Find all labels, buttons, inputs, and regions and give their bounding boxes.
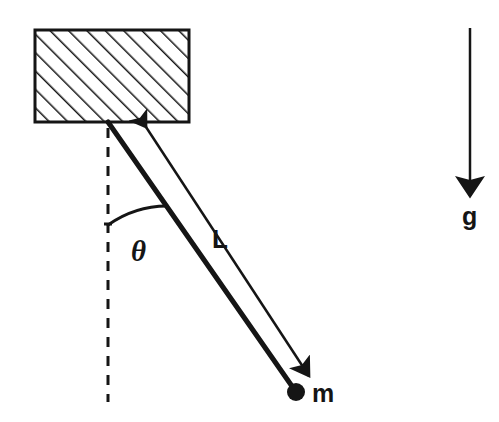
gravity-label-g: g bbox=[462, 204, 477, 229]
length-label-L: L bbox=[212, 226, 228, 252]
pendulum-diagram-canvas bbox=[0, 0, 499, 422]
angle-label-theta: θ bbox=[131, 237, 146, 266]
pendulum-bob bbox=[287, 383, 305, 401]
pendulum-diagram: θ L m g bbox=[0, 0, 499, 422]
support-block bbox=[35, 30, 189, 122]
angle-arc bbox=[108, 206, 167, 225]
mass-label-m: m bbox=[312, 381, 334, 406]
support-block-hatch-fill bbox=[35, 30, 189, 122]
